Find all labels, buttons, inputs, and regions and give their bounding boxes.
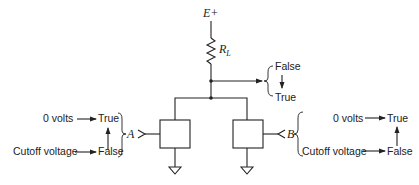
input-a-source-cutoff: Cutoff voltage [13,145,78,157]
logic-circuit-diagram: E+ RL False True A B 0 volts True Cutoff… [0,0,419,185]
input-b-source-cutoff: Cutoff voltage [302,145,367,157]
input-b-source-0v: 0 volts [333,112,363,124]
input-b-state-false: False [387,145,413,157]
ground-a-icon [169,167,181,174]
input-b-connector-icon [278,130,285,138]
input-a-state-false: False [98,145,124,157]
transistor-a [160,120,190,148]
output-state-false: False [275,60,301,72]
ground-b-icon [241,167,253,174]
input-b-label: B [287,127,295,141]
input-a-connector-icon [138,130,145,138]
resistor-rl [207,21,215,98]
input-a-source-0v: 0 volts [43,112,73,124]
bus-wire [175,98,247,120]
output-state-true: True [275,91,296,103]
resistor-label: RL [218,42,231,58]
input-a-label: A [126,127,135,141]
supply-label: E+ [202,6,218,20]
transistor-b [233,120,263,148]
input-b-state-true: True [387,112,408,124]
input-a-state-true: True [98,112,119,124]
output-brace [264,66,273,96]
